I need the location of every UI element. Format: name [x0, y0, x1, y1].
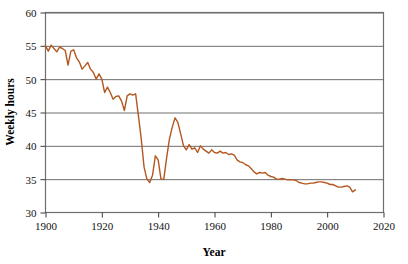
x-tick-label-2020: 2020 — [373, 220, 396, 232]
y-tick-label-50: 50 — [26, 74, 38, 86]
x-axis-tick-labels: 1900192019401960198020002020 — [35, 220, 396, 232]
y-axis-tick-labels: 30354045505560 — [26, 7, 38, 219]
y-axis-title: Weekly hours — [4, 78, 17, 146]
x-tick-label-1940: 1940 — [148, 220, 171, 232]
x-axis-ticks — [46, 213, 384, 218]
x-axis-title: Year — [203, 246, 226, 258]
y-axis-ticks — [41, 13, 46, 213]
y-tick-label-40: 40 — [26, 140, 38, 152]
x-tick-label-1920: 1920 — [91, 220, 114, 232]
y-tick-label-45: 45 — [26, 107, 38, 119]
chart-canvas: 30354045505560 1900192019401960198020002… — [0, 0, 408, 264]
y-tick-label-35: 35 — [26, 174, 38, 186]
y-tick-label-55: 55 — [26, 40, 38, 52]
y-tick-label-30: 30 — [26, 207, 38, 219]
weekly-hours-chart: 30354045505560 1900192019401960198020002… — [0, 0, 408, 264]
x-tick-label-1980: 1980 — [260, 220, 283, 232]
y-tick-label-60: 60 — [26, 7, 38, 19]
x-tick-label-1900: 1900 — [35, 220, 58, 232]
x-tick-label-1960: 1960 — [204, 220, 227, 232]
x-tick-label-2000: 2000 — [317, 220, 340, 232]
